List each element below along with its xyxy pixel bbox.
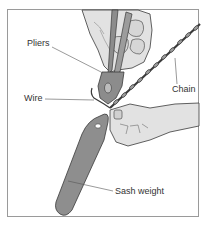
- label-chain: Chain: [172, 85, 196, 94]
- label-sash-weight: Sash weight: [115, 187, 164, 196]
- lower-hand: [110, 103, 199, 146]
- label-wire: Wire: [24, 94, 43, 103]
- label-pliers: Pliers: [27, 39, 50, 48]
- illustration: [0, 0, 206, 227]
- sash-weight: [56, 114, 109, 215]
